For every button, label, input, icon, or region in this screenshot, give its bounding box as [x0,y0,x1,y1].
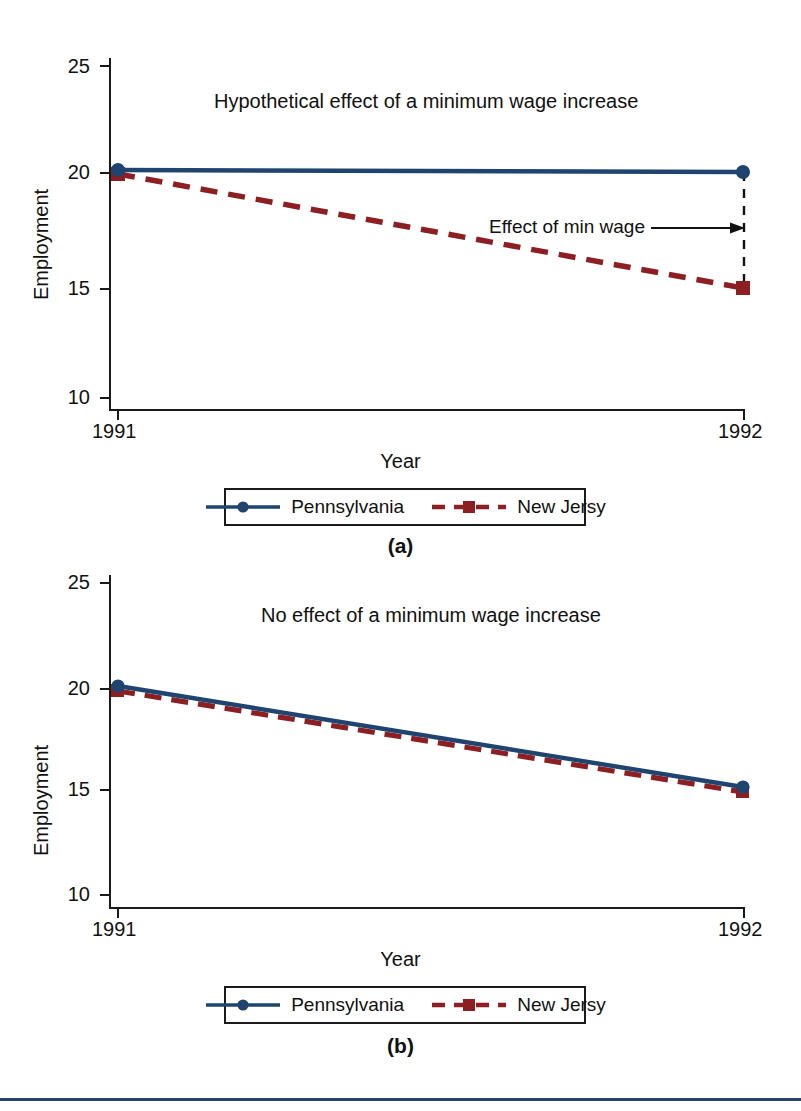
chart-panel-a: Employment 25 20 15 10 1991 1992 Hypothe… [0,0,801,556]
legend-entry-pennsylvania-b[interactable]: Pennsylvania [204,994,404,1016]
series-new-jersey-a [111,167,750,295]
legend-a: Pennsylvania New Jersy [224,488,586,526]
series-layer-b [0,556,801,986]
solid-line-circle-marker-icon [204,498,282,516]
legend-label-new-jersey-b: New Jersy [517,994,606,1016]
legend-entry-pennsylvania-a[interactable]: Pennsylvania [204,496,404,518]
plot-area-a: Employment 25 20 15 10 1991 1992 Hypothe… [0,0,801,430]
chart-panel-b: Employment 25 20 15 10 1991 1992 No effe… [0,556,801,1111]
legend-b: Pennsylvania New Jersy [224,986,586,1024]
legend-entry-new-jersey-b[interactable]: New Jersy [430,994,606,1016]
solid-line-circle-marker-icon [204,996,282,1014]
footer-rule [0,1098,801,1101]
plot-area-b: Employment 25 20 15 10 1991 1992 No effe… [0,556,801,986]
dashed-line-square-marker-icon [430,996,508,1014]
x-axis-title-a: Year [0,450,801,473]
series-layer-a [0,0,801,430]
series-pennsylvania-a [111,163,750,179]
legend-label-pennsylvania-b: Pennsylvania [291,994,404,1016]
panel-caption-b: (b) [0,1034,801,1058]
figure-root: Employment 25 20 15 10 1991 1992 Hypothe… [0,0,801,1111]
legend-entry-new-jersey-a[interactable]: New Jersy [430,496,606,518]
legend-label-pennsylvania-a: Pennsylvania [291,496,404,518]
x-axis-title-b: Year [0,948,801,971]
panel-caption-a: (a) [0,534,801,558]
dashed-line-square-marker-icon [430,498,508,516]
legend-label-new-jersey-a: New Jersy [517,496,606,518]
arrow-right-icon [651,223,745,234]
